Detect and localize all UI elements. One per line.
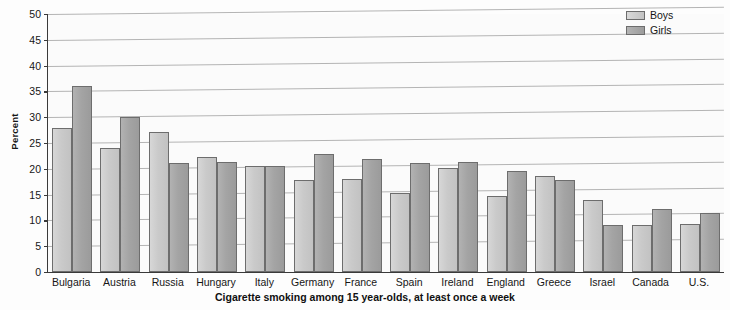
bar-boys[interactable] bbox=[294, 180, 314, 272]
plot-area: 05101520253035404550 bbox=[47, 14, 724, 273]
legend-swatch-boys bbox=[626, 11, 645, 20]
bar-boys[interactable] bbox=[680, 224, 700, 272]
x-tick-label: Greece bbox=[537, 276, 571, 288]
x-tick-label: Israel bbox=[589, 276, 615, 288]
y-tick-label: 20 bbox=[1, 163, 41, 175]
bar-boys[interactable] bbox=[583, 200, 603, 272]
bar-group bbox=[48, 14, 96, 272]
legend-item-boys[interactable]: Boys bbox=[626, 9, 673, 21]
bar-group bbox=[241, 14, 289, 272]
bar-girls[interactable] bbox=[169, 163, 189, 272]
x-tick-label: Germany bbox=[291, 276, 334, 288]
bar-group bbox=[96, 14, 144, 272]
x-axis-title: Cigarette smoking among 15 year-olds, at… bbox=[0, 291, 730, 303]
legend-label-boys: Boys bbox=[650, 9, 673, 21]
x-tick-label: Hungary bbox=[196, 276, 236, 288]
bar-boys[interactable] bbox=[197, 157, 217, 272]
bar-girls[interactable] bbox=[507, 171, 527, 272]
bar-group bbox=[483, 14, 531, 272]
bar-boys[interactable] bbox=[487, 196, 507, 272]
y-tick-label: 10 bbox=[1, 214, 41, 226]
bar-girls[interactable] bbox=[265, 166, 285, 272]
x-tick-label: U.S. bbox=[689, 276, 709, 288]
bar-boys[interactable] bbox=[149, 132, 169, 272]
bar-chart: Percent 05101520253035404550 BulgariaAus… bbox=[0, 0, 730, 310]
y-tick-label: 45 bbox=[1, 34, 41, 46]
x-tick-label: England bbox=[486, 276, 525, 288]
bar-girls[interactable] bbox=[458, 162, 478, 272]
chart-legend: BoysGirls bbox=[626, 9, 673, 36]
x-tick-label: Bulgaria bbox=[52, 276, 91, 288]
y-tick-label: 0 bbox=[1, 266, 41, 278]
x-tick-label: Austria bbox=[103, 276, 136, 288]
bar-girls[interactable] bbox=[362, 159, 382, 272]
bar-group bbox=[386, 14, 434, 272]
x-tick-label: Spain bbox=[396, 276, 423, 288]
bar-girls[interactable] bbox=[120, 117, 140, 272]
bar-boys[interactable] bbox=[632, 225, 652, 272]
legend-swatch-girls bbox=[626, 26, 645, 35]
x-tick-label: Canada bbox=[632, 276, 669, 288]
legend-item-girls[interactable]: Girls bbox=[626, 24, 673, 36]
y-tick-label: 5 bbox=[1, 240, 41, 252]
y-tick-label: 35 bbox=[1, 85, 41, 97]
bar-girls[interactable] bbox=[72, 86, 92, 272]
y-tick-label: 30 bbox=[1, 111, 41, 123]
x-tick-label: Russia bbox=[152, 276, 184, 288]
bar-group bbox=[531, 14, 579, 272]
bar-boys[interactable] bbox=[52, 128, 72, 272]
bar-girls[interactable] bbox=[700, 213, 720, 272]
bar-group bbox=[676, 14, 724, 272]
bar-group bbox=[579, 14, 627, 272]
x-tick-label: France bbox=[345, 276, 378, 288]
bar-boys[interactable] bbox=[245, 166, 265, 272]
bar-group bbox=[434, 14, 482, 272]
x-tick-label: Ireland bbox=[441, 276, 473, 288]
y-tick-label: 15 bbox=[1, 189, 41, 201]
bar-boys[interactable] bbox=[100, 148, 120, 272]
bar-boys[interactable] bbox=[342, 179, 362, 272]
bar-girls[interactable] bbox=[555, 180, 575, 272]
bar-group bbox=[627, 14, 675, 272]
bar-group bbox=[193, 14, 241, 272]
bar-group bbox=[338, 14, 386, 272]
bar-boys[interactable] bbox=[438, 168, 458, 272]
bar-group bbox=[289, 14, 337, 272]
y-tick-label: 40 bbox=[1, 60, 41, 72]
bar-group bbox=[145, 14, 193, 272]
x-tick-label: Italy bbox=[255, 276, 274, 288]
bar-girls[interactable] bbox=[603, 225, 623, 272]
y-tick-label: 25 bbox=[1, 137, 41, 149]
y-tick-mark bbox=[44, 272, 48, 273]
y-tick-label: 50 bbox=[1, 8, 41, 20]
bar-girls[interactable] bbox=[652, 209, 672, 272]
bar-girls[interactable] bbox=[217, 162, 237, 272]
bar-girls[interactable] bbox=[410, 163, 430, 272]
bar-girls[interactable] bbox=[314, 154, 334, 272]
bar-boys[interactable] bbox=[390, 193, 410, 272]
bar-boys[interactable] bbox=[535, 176, 555, 272]
legend-label-girls: Girls bbox=[650, 24, 672, 36]
